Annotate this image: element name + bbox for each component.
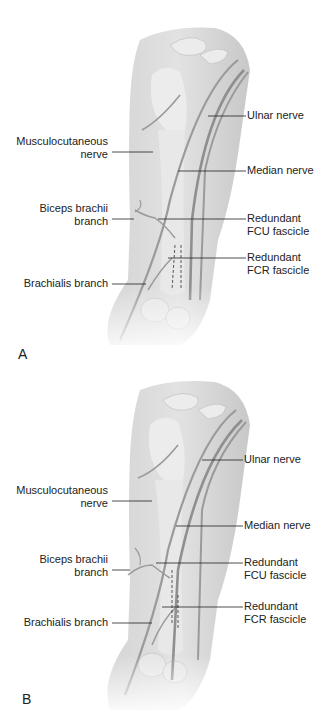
label-median-nerve: Median nerve: [244, 519, 311, 532]
label-musculocutaneous-nerve: Musculocutaneous nerve: [16, 484, 108, 510]
arm-illustration-a: [0, 0, 323, 358]
label-line: Median nerve: [244, 519, 311, 532]
label-median-nerve: Median nerve: [247, 164, 314, 177]
panel-letter-b: B: [22, 691, 31, 707]
label-line: Redundant: [247, 212, 309, 225]
label-biceps-brachii-branch: Biceps brachii branch: [40, 553, 108, 579]
label-ulnar-nerve: Ulnar nerve: [244, 453, 301, 466]
label-line: Musculocutaneous: [16, 484, 108, 497]
label-redundant-fcu-fascicle: Redundant FCU fascicle: [244, 556, 306, 582]
label-line: nerve: [16, 148, 108, 161]
label-line: nerve: [16, 497, 108, 510]
label-ulnar-nerve: Ulnar nerve: [247, 109, 304, 122]
label-line: Musculocutaneous: [16, 135, 108, 148]
arm-illustration-b: [0, 360, 323, 717]
label-line: Biceps brachii: [40, 553, 108, 566]
label-line: FCU fascicle: [244, 569, 306, 582]
label-line: Median nerve: [247, 164, 314, 177]
panel-b: Musculocutaneous nerve Biceps brachii br…: [0, 360, 323, 717]
label-line: Ulnar nerve: [244, 453, 301, 466]
label-line: branch: [40, 215, 108, 228]
label-brachialis-branch: Brachialis branch: [24, 277, 108, 290]
label-redundant-fcr-fascicle: Redundant FCR fascicle: [247, 251, 309, 277]
label-brachialis-branch: Brachialis branch: [24, 616, 108, 629]
label-redundant-fcr-fascicle: Redundant FCR fascicle: [244, 600, 306, 626]
label-line: Redundant: [244, 600, 306, 613]
label-line: FCR fascicle: [247, 264, 309, 277]
panel-a: Musculocutaneous nerve Biceps brachii br…: [0, 0, 323, 358]
label-line: FCR fascicle: [244, 613, 306, 626]
label-musculocutaneous-nerve: Musculocutaneous nerve: [16, 135, 108, 161]
label-line: Brachialis branch: [24, 277, 108, 290]
label-line: FCU fascicle: [247, 225, 309, 238]
label-redundant-fcu-fascicle: Redundant FCU fascicle: [247, 212, 309, 238]
label-biceps-brachii-branch: Biceps brachii branch: [40, 202, 108, 228]
label-line: Redundant: [244, 556, 306, 569]
label-line: Ulnar nerve: [247, 109, 304, 122]
label-line: Biceps brachii: [40, 202, 108, 215]
label-line: Brachialis branch: [24, 616, 108, 629]
label-line: branch: [40, 566, 108, 579]
label-line: Redundant: [247, 251, 309, 264]
